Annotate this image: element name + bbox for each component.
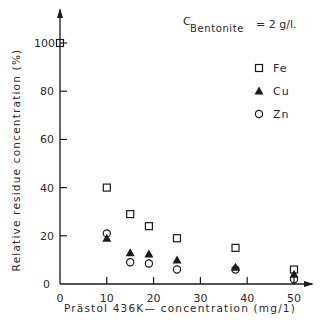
annotation-value: = 2 g/l. — [256, 18, 296, 31]
triangle-marker-icon — [255, 87, 264, 95]
series-cu — [102, 234, 298, 278]
x-axis-label: Prästol 436K— concentration (mg/1) — [64, 302, 296, 314]
fe-point — [174, 235, 181, 242]
axes — [57, 8, 314, 287]
series-fe — [57, 40, 298, 274]
zn-point — [127, 259, 134, 266]
fe-point — [127, 211, 134, 218]
data-points — [57, 40, 299, 283]
fe-point — [232, 244, 239, 251]
annotation-subscript: Bentonite — [190, 23, 244, 34]
circle-marker-icon — [255, 110, 262, 117]
legend-label: Fe — [273, 62, 288, 75]
scatter-chart: 01020304050 020406080100 Prästol 436K— c… — [0, 0, 329, 331]
y-tick-label: 40 — [40, 182, 54, 195]
fe-point — [103, 184, 110, 191]
zn-point — [173, 266, 180, 273]
y-axis-arrow-icon — [57, 8, 63, 18]
y-tick-label: 100 — [34, 37, 55, 50]
y-tick-label: 20 — [40, 230, 54, 243]
cu-point — [126, 248, 135, 256]
legend: FeCuZn — [255, 62, 290, 121]
cu-point — [144, 249, 153, 257]
legend-item-zn: Zn — [255, 108, 289, 121]
square-marker-icon — [256, 65, 263, 72]
bentonite-annotation: C Bentonite = 2 g/l. — [183, 15, 296, 34]
y-tick-label: 0 — [43, 278, 50, 291]
cu-point — [173, 255, 182, 263]
zn-point — [145, 260, 152, 267]
fe-point — [145, 223, 152, 230]
legend-label: Cu — [273, 85, 290, 98]
x-axis-arrow-icon — [304, 281, 314, 287]
legend-item-fe: Fe — [256, 62, 288, 75]
y-axis-label: Relative residue concentration (%) — [10, 49, 22, 272]
x-ticks: 01020304050 — [57, 277, 302, 305]
legend-item-cu: Cu — [255, 85, 290, 98]
y-ticks: 020406080100 — [34, 37, 67, 291]
x-tick-label: 0 — [57, 292, 64, 305]
y-tick-label: 80 — [40, 85, 54, 98]
y-tick-label: 60 — [40, 133, 54, 146]
series-zn — [103, 230, 297, 283]
legend-label: Zn — [273, 108, 290, 121]
